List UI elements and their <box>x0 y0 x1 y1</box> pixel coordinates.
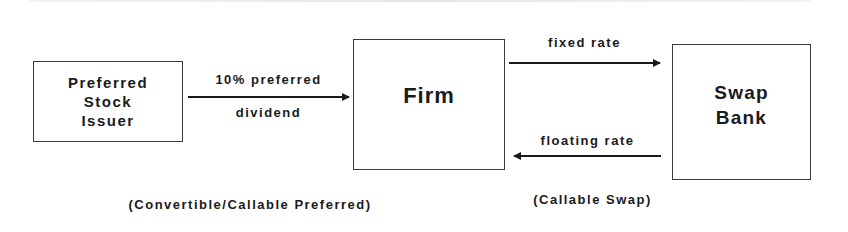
issuer-label-line-1: Preferred <box>68 73 148 92</box>
dividend-arrow-right <box>188 96 349 98</box>
bank-label-line-2: Bank <box>716 105 767 130</box>
firm-label: Firm <box>403 83 455 109</box>
fixed-rate-label: fixed rate <box>509 35 660 50</box>
preferred-stock-issuer-box: Preferred Stock Issuer <box>33 61 183 142</box>
floating-rate-label: floating rate <box>514 133 661 148</box>
fixed-rate-arrow-right <box>509 62 660 64</box>
issuer-label-line-2: Stock <box>84 92 132 111</box>
convertible-callable-preferred-caption: (Convertible/Callable Preferred) <box>100 197 400 212</box>
dividend-arrow-label-top: 10% preferred <box>188 72 349 87</box>
callable-swap-caption: (Callable Swap) <box>510 192 675 207</box>
swap-bank-box: Swap Bank <box>672 44 811 180</box>
dividend-arrow-label-bottom: dividend <box>188 105 349 120</box>
issuer-label-line-3: Issuer <box>81 111 134 130</box>
scan-edge-line <box>30 0 810 2</box>
firm-box: Firm <box>353 39 505 170</box>
bank-label-line-1: Swap <box>714 80 768 105</box>
floating-rate-arrow-left <box>514 155 661 157</box>
